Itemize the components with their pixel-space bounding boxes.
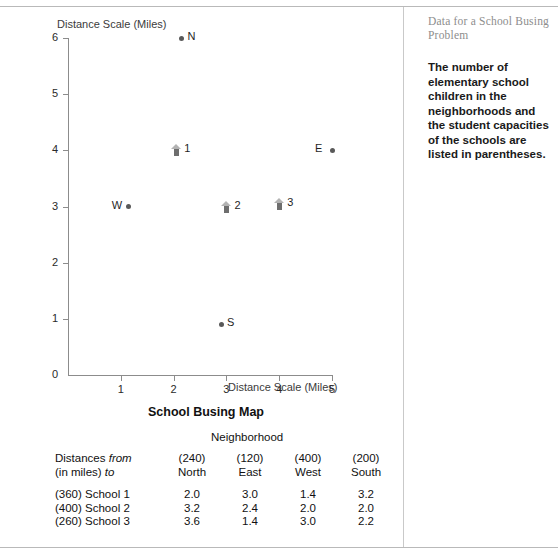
x-tick-2	[174, 375, 175, 381]
column-capacity: (120)	[221, 452, 279, 466]
cell-distance: 2.4	[221, 502, 279, 516]
row-label: (400) School 2	[55, 502, 163, 516]
x-tick-label-1: 1	[114, 383, 128, 395]
school-house-icon-3	[274, 198, 285, 210]
row-label: (360) School 1	[55, 488, 163, 502]
cell-distance: 1.4	[279, 488, 337, 502]
neighborhood-label-E: E	[315, 142, 322, 154]
cell-distance: 2.0	[337, 502, 395, 516]
x-tick-5	[332, 375, 333, 381]
x-tick-1	[121, 375, 122, 381]
cell-distance: 2.0	[279, 502, 337, 516]
y-tick-label-6: 6	[44, 31, 58, 43]
table-row: (260) School 33.61.43.02.2	[55, 515, 395, 529]
table-row-header-line1: Distances from	[55, 452, 163, 466]
x-tick-3	[226, 375, 227, 381]
table-header-row-name: (in miles) toNorthEastWestSouth	[55, 466, 395, 480]
y-tick-4	[63, 150, 69, 151]
cell-distance: 2.0	[163, 488, 221, 502]
cell-distance: 1.4	[221, 515, 279, 529]
side-panel-body: The number of elementary school children…	[428, 60, 552, 162]
x-axis-line	[68, 375, 332, 376]
y-tick-label-5: 5	[44, 87, 58, 99]
cell-distance: 3.0	[279, 515, 337, 529]
table-header-row-capacity: Distances from(240)(120)(400)(200)	[55, 452, 395, 466]
school-label-2: 2	[234, 199, 240, 211]
y-tick-3	[63, 207, 69, 208]
neighborhood-label-W: W	[112, 199, 122, 211]
table-row: (360) School 12.03.01.43.2	[55, 488, 395, 502]
side-panel: Data for a School Busing Problem The num…	[428, 14, 552, 162]
x-tick-label-2: 2	[167, 383, 181, 395]
cell-distance: 3.6	[163, 515, 221, 529]
table-title: School Busing Map	[148, 405, 264, 419]
y-axis-title: Distance Scale (Miles)	[57, 18, 166, 30]
row-label: (260) School 3	[55, 515, 163, 529]
cell-distance: 3.2	[163, 502, 221, 516]
school-house-icon-2	[221, 201, 232, 213]
y-tick-5	[63, 94, 69, 95]
y-tick-label-2: 2	[44, 256, 58, 268]
y-tick-label-1: 1	[44, 312, 58, 324]
neighborhood-marker-W	[126, 204, 131, 209]
school-label-3: 3	[287, 196, 293, 208]
x-tick-4	[279, 375, 280, 381]
column-capacity: (240)	[163, 452, 221, 466]
neighborhood-label-S: S	[227, 316, 234, 328]
y-tick-1	[63, 319, 69, 320]
x-tick-label-4: 4	[272, 383, 286, 395]
neighborhood-label-N: N	[188, 30, 196, 42]
column-name: North	[163, 466, 221, 480]
table-row-header-line2: (in miles) to	[55, 466, 163, 480]
table-spacer-row	[55, 479, 395, 488]
table-group-header: Neighborhood	[211, 431, 283, 443]
school-body-icon	[224, 206, 229, 213]
x-tick-label-5: 5	[325, 383, 339, 395]
school-label-1: 1	[184, 142, 190, 154]
y-tick-label-4: 4	[44, 143, 58, 155]
y-tick-2	[63, 263, 69, 264]
school-body-icon	[277, 203, 282, 210]
column-name: South	[337, 466, 395, 480]
side-panel-title: Data for a School Busing Problem	[428, 14, 552, 42]
column-name: West	[279, 466, 337, 480]
column-name: East	[221, 466, 279, 480]
neighborhood-marker-S	[219, 322, 224, 327]
y-tick-label-0: 0	[44, 368, 58, 380]
busing-distance-table: Distances from(240)(120)(400)(200)(in mi…	[55, 452, 395, 529]
x-tick-label-3: 3	[219, 383, 233, 395]
column-capacity: (400)	[279, 452, 337, 466]
cell-distance: 3.0	[221, 488, 279, 502]
scatter-plot: Distance Scale (Miles) Distance Scale (M…	[0, 0, 404, 400]
cell-distance: 3.2	[337, 488, 395, 502]
table-row: (400) School 23.22.42.02.0	[55, 502, 395, 516]
column-capacity: (200)	[337, 452, 395, 466]
cell-distance: 2.2	[337, 515, 395, 529]
y-tick-label-3: 3	[44, 200, 58, 212]
y-tick-6	[63, 38, 69, 39]
page-bottom-rule	[0, 547, 558, 548]
school-house-icon-1	[171, 144, 182, 156]
school-body-icon	[174, 149, 179, 156]
neighborhood-marker-N	[179, 36, 184, 41]
neighborhood-marker-E	[330, 148, 335, 153]
